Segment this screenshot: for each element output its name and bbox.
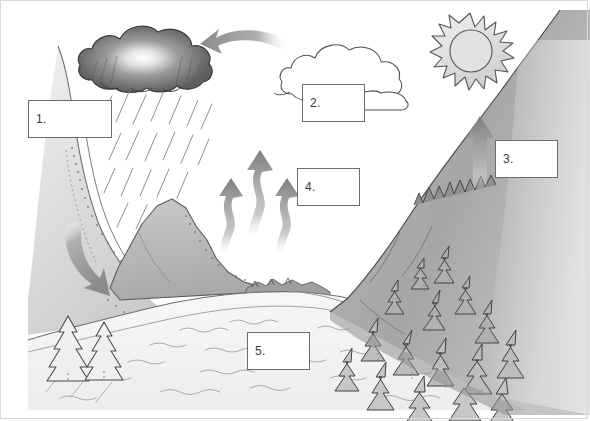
label-text-5: 5. — [255, 345, 266, 357]
label-text-4: 4. — [305, 181, 316, 193]
label-box-4[interactable]: 4. — [297, 168, 360, 206]
label-box-1[interactable]: 1. — [28, 100, 112, 138]
label-text-1: 1. — [36, 113, 47, 125]
water-cycle-diagram: 1. 2. 3. 4. 5. — [0, 0, 590, 421]
label-text-2: 2. — [310, 97, 321, 109]
label-text-3: 3. — [503, 153, 514, 165]
label-box-3[interactable]: 3. — [495, 140, 558, 178]
label-box-5[interactable]: 5. — [247, 332, 310, 370]
label-box-2[interactable]: 2. — [302, 84, 365, 122]
